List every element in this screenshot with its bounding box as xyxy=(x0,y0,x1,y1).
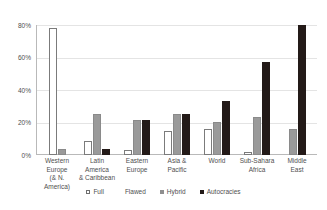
bar-autocracies xyxy=(102,149,110,156)
bar-autocracies xyxy=(182,114,190,155)
bar-hybrid xyxy=(253,117,261,155)
legend-label: Hybrid xyxy=(167,188,186,195)
x-axis-label: World xyxy=(197,157,237,191)
legend-label: Flawed xyxy=(125,188,146,195)
x-axis-label: Middle East xyxy=(277,157,317,191)
bar-flawed xyxy=(244,152,252,155)
bar-autocracies xyxy=(222,101,230,155)
bar-flawed xyxy=(204,129,212,155)
y-tick-label: 80% xyxy=(18,22,31,29)
bar-flawed xyxy=(164,131,172,155)
bar-full xyxy=(49,28,57,155)
x-axis-label: Asia & Pacific xyxy=(157,157,197,191)
y-tick-label: 40% xyxy=(18,87,31,94)
bar-autocracies xyxy=(298,25,306,155)
bar-group xyxy=(197,25,237,155)
bar-hybrid xyxy=(289,129,297,155)
y-tick-label: 0% xyxy=(22,152,31,159)
bar-hybrid xyxy=(93,114,101,155)
bar-group xyxy=(157,25,197,155)
chart-legend: FullFlawedHybridAutocracies xyxy=(0,188,327,195)
legend-item-hybrid[interactable]: Hybrid xyxy=(160,188,186,195)
x-axis-label: Sub-Sahara Africa xyxy=(237,157,277,191)
x-axis-label: Latin America & Caribbean xyxy=(77,157,117,191)
x-axis-label: Western Europe (& N. America) xyxy=(37,157,77,191)
x-axis-label: Eastern Europe xyxy=(117,157,157,191)
bar-hybrid xyxy=(58,149,66,156)
bar-flawed xyxy=(84,141,92,155)
legend-item-flawed[interactable]: Flawed xyxy=(118,188,146,195)
bar-autocracies xyxy=(262,62,270,155)
bar-group xyxy=(37,25,77,155)
bar-group xyxy=(237,25,277,155)
bar-hybrid xyxy=(133,120,141,155)
bar-groups xyxy=(37,25,317,155)
gray-square-marker-icon xyxy=(160,190,164,194)
blank-marker-icon xyxy=(118,190,122,194)
legend-item-full[interactable]: Full xyxy=(86,188,103,195)
bar-group xyxy=(277,25,317,155)
bar-group xyxy=(77,25,117,155)
bar-hybrid xyxy=(213,122,221,155)
black-square-marker-icon xyxy=(200,190,204,194)
y-axis: 80% 60% 40% 20% 0% xyxy=(0,25,33,155)
y-tick-label: 20% xyxy=(18,119,31,126)
legend-item-autocracies[interactable]: Autocracies xyxy=(200,188,241,195)
bar-chart: 80% 60% 40% 20% 0% Western Europe (& N. … xyxy=(0,0,327,210)
legend-label: Full xyxy=(93,188,103,195)
bar-hybrid xyxy=(173,114,181,155)
x-axis-labels: Western Europe (& N. America)Latin Ameri… xyxy=(37,157,317,191)
open-square-marker-icon xyxy=(86,190,90,194)
bar-flawed xyxy=(124,150,132,155)
bar-autocracies xyxy=(142,120,150,155)
bar-group xyxy=(117,25,157,155)
legend-label: Autocracies xyxy=(207,188,241,195)
y-tick-label: 60% xyxy=(18,54,31,61)
